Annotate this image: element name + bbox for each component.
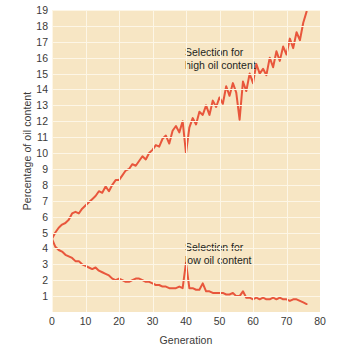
y-tick-label: 17 xyxy=(32,37,48,48)
gridline-vertical xyxy=(119,10,120,312)
y-tick-label: 6 xyxy=(32,212,48,223)
x-tick-label: 40 xyxy=(173,316,199,327)
gridline-vertical xyxy=(220,10,221,312)
y-tick-label: 19 xyxy=(32,5,48,16)
y-tick-label: 10 xyxy=(32,148,48,159)
x-axis-title: Generation xyxy=(52,334,320,346)
x-tick-label: 60 xyxy=(240,316,266,327)
y-tick-label: 5 xyxy=(32,228,48,239)
x-tick-label: 10 xyxy=(73,316,99,327)
gridline-vertical xyxy=(287,10,288,312)
y-axis-tick-labels: 12345678910111213141516171819 xyxy=(26,0,48,353)
x-tick-label: 30 xyxy=(140,316,166,327)
gridline-vertical xyxy=(253,10,254,312)
y-tick-label: 8 xyxy=(32,180,48,191)
y-tick-label: 16 xyxy=(32,53,48,64)
annotation-low-oil: Selection forlow oil content xyxy=(185,241,252,267)
x-tick-label: 50 xyxy=(207,316,233,327)
y-tick-label: 15 xyxy=(32,69,48,80)
y-tick-label: 7 xyxy=(32,196,48,207)
oil-content-chart: Percentage of oil content 12345678910111… xyxy=(0,0,350,353)
x-tick-label: 70 xyxy=(274,316,300,327)
y-tick-label: 13 xyxy=(32,100,48,111)
y-tick-label: 18 xyxy=(32,21,48,32)
series-line xyxy=(52,12,307,239)
y-tick-label: 4 xyxy=(32,243,48,254)
gridline-vertical xyxy=(186,10,187,312)
plot-area: Selection forhigh oil content Selection … xyxy=(52,10,320,312)
y-tick-label: 12 xyxy=(32,116,48,127)
gridline-vertical xyxy=(153,10,154,312)
y-tick-label: 9 xyxy=(32,164,48,175)
y-tick-label: 1 xyxy=(32,291,48,302)
x-tick-label: 0 xyxy=(39,316,65,327)
y-tick-label: 14 xyxy=(32,84,48,95)
gridline-vertical xyxy=(86,10,87,312)
y-tick-label: 3 xyxy=(32,259,48,270)
x-tick-label: 20 xyxy=(106,316,132,327)
x-tick-label: 80 xyxy=(307,316,333,327)
y-tick-label: 11 xyxy=(32,132,48,143)
y-tick-label: 2 xyxy=(32,275,48,286)
gridline-vertical xyxy=(52,10,53,312)
